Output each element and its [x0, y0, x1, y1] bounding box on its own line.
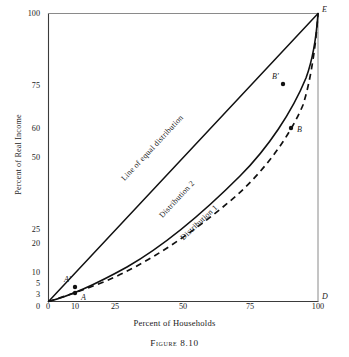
point-label-B-prime: B': [272, 73, 279, 81]
point-label-A-prime: A': [64, 276, 71, 284]
figure-caption-number: 8.10: [180, 338, 198, 348]
point-label-D: D: [322, 293, 328, 301]
plot-area: [0, 0, 349, 357]
point-label-B: B: [297, 126, 302, 134]
point-marker-A: [73, 291, 77, 295]
figure-caption-word: Figure: [150, 338, 177, 348]
point-label-A: A: [81, 294, 86, 302]
point-marker-B: [289, 126, 293, 130]
figure-caption: Figure 8.10: [0, 338, 349, 348]
point-marker-B-prime: [281, 82, 285, 86]
point-marker-A-prime: [73, 285, 77, 289]
point-label-E: E: [322, 6, 327, 14]
lorenz-curve-figure: Percent of Real Income 100 75 60 50 25 2…: [0, 0, 349, 357]
curve-line-of-equal-distribution: [49, 14, 319, 302]
x-axis-title: Percent of Households: [0, 318, 349, 328]
